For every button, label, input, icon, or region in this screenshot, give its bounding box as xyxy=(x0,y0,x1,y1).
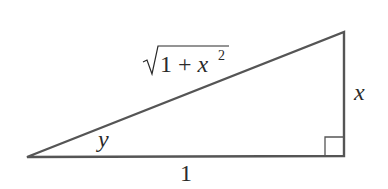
right-angle-marker xyxy=(325,137,344,156)
hypotenuse-exponent: 2 xyxy=(218,48,225,63)
adjacent-label: 1 xyxy=(180,160,192,186)
radicand-x: x xyxy=(197,51,209,77)
triangle-diagram: 1 + x 2 x 1 y xyxy=(0,0,388,189)
hypotenuse-label: 1 + x 2 xyxy=(143,46,229,77)
opposite-label: x xyxy=(353,79,365,105)
radicand-one: 1 + xyxy=(160,51,198,77)
angle-label: y xyxy=(96,126,109,152)
hypotenuse-radicand: 1 + x xyxy=(160,51,209,77)
